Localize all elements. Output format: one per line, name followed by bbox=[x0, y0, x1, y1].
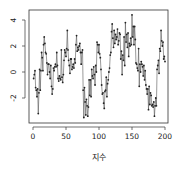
data-point bbox=[53, 67, 55, 69]
data-point bbox=[125, 22, 127, 24]
data-point bbox=[80, 63, 82, 65]
data-point bbox=[142, 75, 144, 77]
data-point bbox=[82, 89, 84, 91]
data-point bbox=[68, 59, 70, 61]
data-point bbox=[139, 63, 141, 65]
data-point bbox=[53, 70, 55, 72]
data-point bbox=[152, 106, 154, 108]
data-point bbox=[138, 85, 140, 87]
data-point bbox=[77, 46, 79, 48]
data-point bbox=[40, 70, 42, 72]
data-point bbox=[66, 30, 68, 32]
y-tick-label: 2 bbox=[9, 43, 18, 48]
line-chart: 050100150200 -2024 지수 bbox=[0, 0, 183, 173]
data-point bbox=[158, 59, 160, 61]
data-point bbox=[123, 59, 125, 61]
data-point bbox=[76, 50, 78, 52]
data-point bbox=[137, 70, 139, 72]
data-point bbox=[52, 88, 54, 90]
data-point bbox=[37, 88, 39, 90]
data-point bbox=[64, 52, 66, 54]
data-point bbox=[145, 84, 147, 86]
data-point bbox=[51, 93, 53, 95]
data-point bbox=[57, 65, 59, 67]
data-point bbox=[84, 87, 86, 89]
data-point bbox=[131, 14, 133, 16]
data-point bbox=[87, 115, 89, 117]
data-point bbox=[124, 65, 126, 67]
data-point bbox=[133, 44, 135, 46]
data-point bbox=[35, 89, 37, 91]
data-point bbox=[111, 31, 113, 33]
data-point bbox=[129, 45, 131, 47]
data-point bbox=[101, 84, 103, 86]
data-point bbox=[158, 72, 160, 74]
data-point bbox=[160, 30, 162, 32]
data-point bbox=[163, 56, 165, 58]
data-point bbox=[132, 36, 134, 38]
data-point bbox=[115, 33, 117, 35]
data-point bbox=[49, 71, 51, 73]
data-point bbox=[41, 57, 43, 59]
data-point bbox=[45, 53, 47, 55]
data-point bbox=[39, 69, 41, 71]
data-point bbox=[41, 52, 43, 54]
data-point bbox=[113, 30, 115, 32]
data-point bbox=[43, 36, 45, 38]
data-point bbox=[108, 71, 110, 73]
data-point bbox=[159, 50, 161, 52]
data-point bbox=[121, 74, 123, 76]
data-point bbox=[44, 43, 46, 45]
data-point bbox=[71, 69, 73, 71]
data-point bbox=[130, 37, 132, 39]
data-point bbox=[140, 61, 142, 63]
data-point bbox=[144, 79, 146, 81]
data-point bbox=[72, 66, 74, 68]
data-point bbox=[34, 70, 36, 72]
data-point bbox=[60, 49, 62, 51]
data-point bbox=[92, 78, 94, 80]
data-point bbox=[98, 44, 100, 46]
data-point bbox=[47, 74, 49, 76]
data-point bbox=[33, 78, 35, 80]
data-point bbox=[121, 50, 123, 52]
data-point bbox=[146, 93, 148, 95]
data-point bbox=[78, 45, 80, 47]
data-point bbox=[76, 35, 78, 37]
data-point bbox=[91, 69, 93, 71]
data-point bbox=[60, 79, 62, 81]
data-point bbox=[153, 101, 155, 103]
data-point bbox=[43, 44, 45, 46]
data-point bbox=[125, 41, 127, 43]
data-point bbox=[118, 40, 120, 42]
data-point bbox=[157, 65, 159, 67]
data-point bbox=[81, 52, 83, 54]
plot-frame bbox=[29, 10, 168, 123]
data-point bbox=[142, 66, 144, 68]
data-point bbox=[46, 62, 48, 64]
data-point bbox=[68, 65, 70, 67]
data-point bbox=[130, 44, 132, 46]
data-point bbox=[62, 82, 64, 84]
data-point bbox=[88, 106, 90, 108]
data-point bbox=[138, 48, 140, 50]
data-point bbox=[75, 44, 77, 46]
data-point bbox=[56, 52, 58, 54]
data-point bbox=[162, 41, 164, 43]
data-point bbox=[114, 43, 116, 45]
data-point bbox=[84, 101, 86, 103]
data-point bbox=[136, 67, 138, 69]
data-point bbox=[55, 66, 57, 68]
data-point bbox=[74, 58, 76, 60]
data-point bbox=[58, 80, 60, 82]
data-point bbox=[66, 48, 68, 50]
data-point bbox=[128, 43, 130, 45]
data-point bbox=[73, 67, 75, 69]
data-point bbox=[86, 105, 88, 107]
y-axis: -2024 bbox=[9, 17, 25, 101]
data-point bbox=[42, 70, 44, 72]
data-point bbox=[161, 40, 163, 42]
x-axis: 050100150200 bbox=[31, 127, 173, 141]
data-point bbox=[93, 66, 95, 68]
data-point bbox=[136, 63, 138, 65]
